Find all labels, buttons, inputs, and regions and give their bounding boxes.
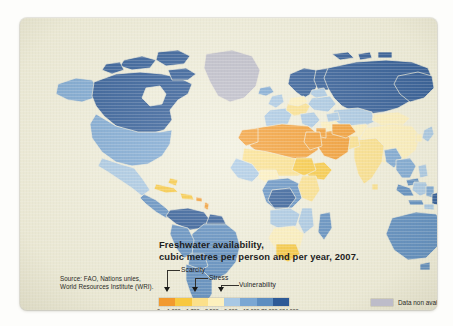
region-sri-lanka [372, 184, 378, 190]
callout-label-stress: Stress [209, 274, 228, 281]
region-canada-arctic-4 [168, 68, 196, 80]
legend-band-0 [159, 298, 175, 306]
legend-tick-6: 70 000 [261, 308, 278, 310]
region-canada-arctic-1 [120, 56, 156, 70]
region-uk-ireland [268, 94, 284, 108]
region-indochina [396, 158, 416, 178]
callout-label-scarcity: Scarcity [181, 266, 205, 273]
map-screenshot: Freshwater availability, cubic metres pe… [0, 0, 453, 326]
source-line-1: Source: FAO, Nations unies, [60, 275, 154, 283]
region-caucasus [326, 112, 340, 122]
region-hispaniola [180, 193, 194, 200]
region-japan [422, 126, 434, 142]
legend-band-2 [192, 298, 208, 306]
legend-title-line1: Freshwater availability, [159, 239, 389, 251]
callout-arrow-stress [192, 287, 198, 292]
region-australia [386, 212, 437, 260]
legend-tick-3: 2 500 [205, 308, 219, 310]
region-greenland [204, 50, 260, 102]
no-data-swatch [371, 299, 393, 306]
no-data-key: Data non available [371, 299, 437, 306]
legend-band-4 [224, 298, 240, 306]
legend-band-3 [208, 298, 224, 306]
legend-tick-5: 15 000 [243, 308, 260, 310]
source-line-2: World Resources Institute (WRI). [60, 283, 154, 291]
region-canada-arctic-2 [156, 50, 190, 66]
region-novaya-zemlya [358, 52, 372, 60]
callout-label-vulnerability: Vulnerability [239, 281, 276, 288]
legend-scale-labels: 0 1 000 1 700 2 500 6 000 15 000 70 000 … [155, 308, 301, 310]
region-java [408, 200, 424, 205]
region-canada-arctic-3 [102, 62, 124, 74]
no-data-label: Data non available [398, 299, 437, 306]
region-lesser-antilles [204, 202, 209, 210]
legend-color-bar [159, 298, 289, 306]
region-bahamas [168, 178, 178, 186]
region-korea [416, 134, 422, 142]
legend-tick-0: 0 [157, 308, 160, 310]
region-philippines [418, 164, 428, 178]
region-arctic-islands-ru [332, 52, 354, 60]
legend-tick-4: 6 000 [224, 308, 238, 310]
legend-tick-2: 1 700 [186, 308, 200, 310]
legend-tick-1: 1 000 [167, 308, 181, 310]
legend-callouts: Scarcity Stress Vulnerability [159, 266, 389, 296]
legend-title-line2: cubic metres per person and per year, 20… [159, 251, 389, 263]
region-ukraine-belarus [308, 96, 336, 112]
region-mozambique [298, 208, 314, 234]
region-madagascar [318, 212, 332, 240]
legend-band-7 [273, 298, 289, 306]
legend: Freshwater availability, cubic metres pe… [159, 239, 389, 296]
region-tasmania [420, 262, 430, 270]
region-alaska [56, 78, 98, 102]
region-puerto-rico [196, 197, 202, 202]
region-severnaya [378, 52, 392, 58]
legend-band-6 [257, 298, 273, 306]
region-iceland [258, 86, 274, 96]
legend-tick-7: 684 000 [279, 308, 299, 310]
callout-arrow-scarcity [164, 287, 170, 292]
callout-arrow-vulnerability [218, 287, 224, 292]
legend-band-1 [175, 298, 191, 306]
source-credit: Source: FAO, Nations unies, World Resour… [60, 275, 154, 291]
region-timor [424, 204, 434, 210]
region-morocco-west [238, 128, 258, 146]
map-card: Freshwater availability, cubic metres pe… [20, 18, 437, 310]
legend-band-5 [240, 298, 256, 306]
